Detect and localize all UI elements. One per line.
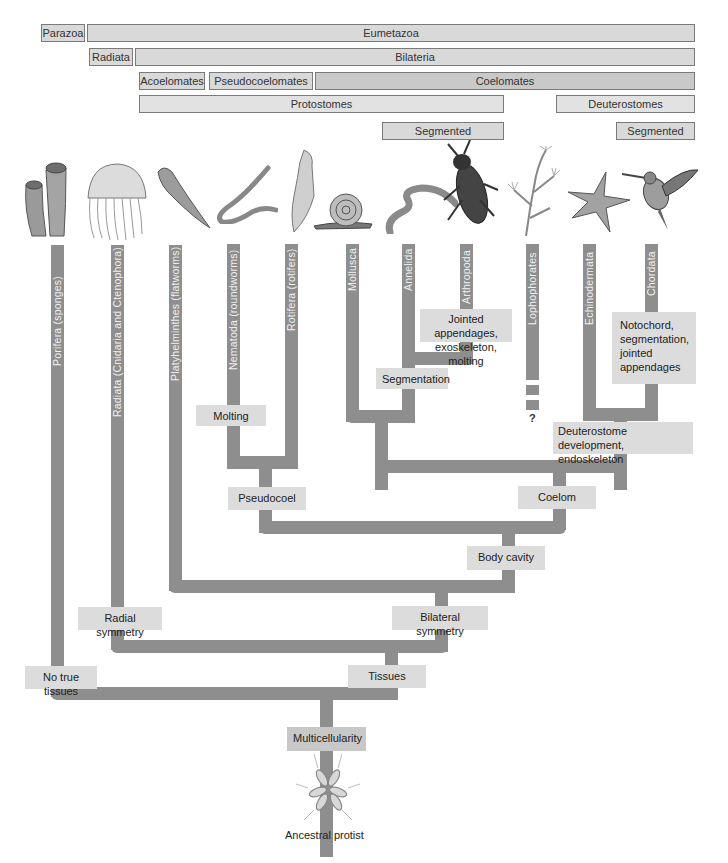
taxon-label-arthropoda: Arthropoda [460, 250, 472, 304]
bar-segmented-deuterostomes: Segmented [616, 122, 695, 140]
trait-radial-symmetry: Radial symmetry [78, 607, 162, 630]
taxon-label-mollusca: Mollusca [346, 248, 358, 291]
taxon-label-rotifera: Rotifera (rotifers) [285, 248, 297, 331]
trait-multicellularity: Multicellularity [287, 727, 366, 751]
bar-radiata: Radiata [89, 48, 133, 66]
taxon-label-annelida: Annelida [402, 249, 414, 291]
snail-icon [312, 190, 374, 230]
roundworm-icon [212, 164, 278, 224]
branch-lophophorates-dash2 [526, 400, 539, 410]
trait-bilateral-symmetry: Bilateral symmetry [392, 606, 488, 630]
bar-protostomes: Protostomes [139, 95, 504, 113]
trait-jointed-appendages: Jointed appendages, exoskeleton, molting [420, 309, 512, 342]
trait-molting: Molting [196, 405, 266, 426]
taxon-label-radiata: Radiata (Cnidaria and Ctenophora) [111, 247, 123, 417]
bar-deuterostomes: Deuterostomes [556, 95, 695, 113]
taxon-label-echinodermata: Echinodermata [583, 252, 595, 325]
taxon-label-lophophorates: Lophophorates [526, 252, 538, 325]
trait-deuterostome-development: Deuterostome development, endoskeleton [553, 422, 693, 454]
join-metazoa [51, 687, 398, 700]
taxon-label-porifera: Porifera (sponges) [51, 276, 63, 366]
trait-body-cavity: Body cavity [467, 546, 545, 570]
trait-notochord: Notochord, segmentation, jointed appenda… [612, 312, 696, 384]
stem-lophotrochozoa [375, 410, 388, 490]
trait-pseudocoel: Pseudocoel [228, 487, 306, 510]
sponge-icon [20, 150, 80, 238]
taxon-label-chordata: Chordata [645, 251, 657, 296]
bar-bilateria: Bilateria [135, 48, 695, 66]
bryozoan-icon [506, 146, 566, 238]
bar-eumetazoa: Eumetazoa [87, 24, 695, 42]
unknown-origin-marker: ? [529, 412, 536, 424]
branch-lophophorates-dash1 [526, 385, 539, 395]
bar-coelomates: Coelomates [315, 72, 695, 90]
flatworm-icon [154, 162, 212, 230]
bar-parazoa: Parazoa [41, 24, 85, 42]
trait-tissues: Tissues [348, 665, 426, 688]
taxon-label-nematoda: Nematoda (roundworms) [227, 250, 239, 370]
hummingbird-icon [622, 160, 700, 232]
choanoflagellate-colony-icon [296, 752, 360, 822]
bar-pseudocoelomates: Pseudocoelomates [209, 72, 313, 90]
jellyfish-icon [80, 160, 152, 240]
trait-no-true-tissues: No true tissues [25, 666, 97, 689]
bar-segmented-protostomes: Segmented [382, 122, 504, 140]
bar-acoelomates: Acoelomates [139, 72, 205, 90]
join-bilateria [169, 580, 515, 593]
taxon-label-platyhelminthes: Platyhelminthes (flatworms) [169, 247, 181, 381]
beetle-icon [440, 140, 500, 236]
trait-segmentation: Segmentation [376, 368, 448, 389]
root-label: Ancestral protist [285, 829, 364, 841]
trait-coelom: Coelom [518, 486, 596, 509]
join-body-cavity [259, 521, 566, 534]
